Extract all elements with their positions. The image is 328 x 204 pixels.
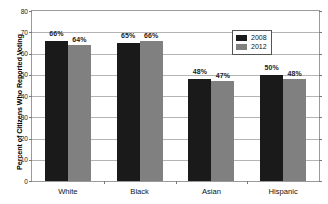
bar-value-label: 66% xyxy=(136,32,167,40)
legend-item-2012: 2012 xyxy=(236,43,267,51)
y-axis-tick-label: 40 xyxy=(14,93,28,100)
y-axis-tick-mark-right xyxy=(319,181,322,182)
y-axis-tick-mark-right xyxy=(319,75,322,76)
y-axis-tick-mark xyxy=(29,181,32,182)
y-axis-tick-mark xyxy=(29,117,32,118)
y-axis-tick-label: 0 xyxy=(14,178,28,185)
y-axis-tick-mark-right xyxy=(319,54,322,55)
y-axis-tick-mark xyxy=(29,32,32,33)
y-axis-tick-mark-right xyxy=(319,96,322,97)
bar-hispanic-2012 xyxy=(283,79,306,181)
y-axis-tick-label: 10 xyxy=(14,156,28,163)
y-axis-tick-mark xyxy=(29,75,32,76)
bar-value-label: 47% xyxy=(207,72,238,80)
x-axis-label-hispanic: Hispanic xyxy=(247,187,319,196)
y-axis-tick-mark-right xyxy=(319,117,322,118)
y-axis-tick-mark xyxy=(29,11,32,12)
bar-value-label: 64% xyxy=(64,36,95,44)
legend-label: 2012 xyxy=(251,43,267,51)
chart-legend: 20082012 xyxy=(232,30,272,55)
y-axis-tick-mark xyxy=(29,160,32,161)
y-axis-tick-mark-right xyxy=(319,11,322,12)
bar-asian-2008 xyxy=(188,79,211,181)
y-axis-tick-mark-right xyxy=(319,32,322,33)
y-axis-tick-mark xyxy=(29,96,32,97)
y-axis-tick-label: 80 xyxy=(14,8,28,15)
bar-black-2008 xyxy=(117,43,140,181)
x-axis-tick-mark xyxy=(176,181,177,184)
plot-area: 66%64%65%66%48%47%50%48% xyxy=(31,10,320,182)
x-axis-tick-mark xyxy=(104,181,105,184)
y-axis-tick-label: 70 xyxy=(14,29,28,36)
x-axis-label-black: Black xyxy=(104,187,176,196)
gridline xyxy=(32,32,319,33)
y-axis-tick-label: 30 xyxy=(14,114,28,121)
bar-chart: Percent of Citizens Who Reported Voting … xyxy=(0,0,328,204)
y-axis-tick-mark xyxy=(29,54,32,55)
bar-value-label: 48% xyxy=(279,70,310,78)
legend-item-2008: 2008 xyxy=(236,34,267,42)
y-axis-tick-mark-right xyxy=(319,139,322,140)
x-axis-label-asian: Asian xyxy=(176,187,248,196)
legend-swatch-icon xyxy=(236,35,247,41)
x-axis-tick-mark xyxy=(247,181,248,184)
bar-asian-2012 xyxy=(211,81,234,181)
bar-white-2012 xyxy=(68,45,91,181)
bar-hispanic-2008 xyxy=(260,75,283,181)
y-axis-tick-mark-right xyxy=(319,160,322,161)
y-axis-tick-label: 50 xyxy=(14,71,28,78)
y-axis-tick-label: 60 xyxy=(14,50,28,57)
x-axis-label-white: White xyxy=(32,187,104,196)
legend-label: 2008 xyxy=(251,34,267,42)
y-axis-tick-labels: 01020304050607080 xyxy=(12,0,28,204)
bar-black-2012 xyxy=(140,41,163,181)
y-axis-tick-mark xyxy=(29,139,32,140)
legend-swatch-icon xyxy=(236,44,247,50)
y-axis-tick-label: 20 xyxy=(14,135,28,142)
bar-white-2008 xyxy=(45,41,68,181)
